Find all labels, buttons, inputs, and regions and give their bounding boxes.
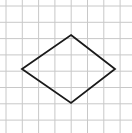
grid-diagram-svg: [0, 0, 132, 133]
figure-canvas: [0, 0, 132, 133]
